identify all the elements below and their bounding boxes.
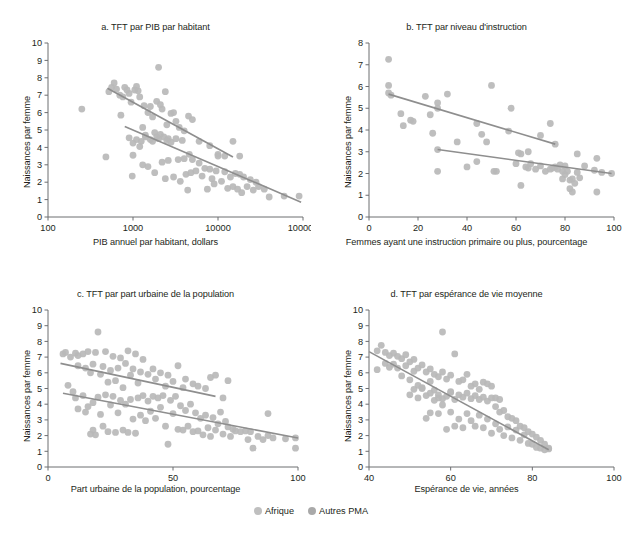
- legend-item-autres-pma: Autres PMA: [308, 506, 368, 516]
- panel-b-title: b. TFT par niveau d'instruction: [311, 22, 622, 32]
- legend-label: Autres PMA: [319, 506, 368, 516]
- panel-c-y-tick-label: 1: [37, 447, 42, 457]
- panel-c-title: c. TFT par part urbaine de la population: [0, 289, 311, 299]
- panel-b-y-tick-label: 0: [358, 212, 363, 222]
- panel-d-y-tick-label: 4: [358, 399, 363, 409]
- panel-b-y-axis-label: Naissances par femme: [343, 96, 353, 188]
- panel-a-y-tick-label: 5: [37, 125, 42, 135]
- panel-b-plot: 012345678020406080100: [311, 10, 622, 260]
- panel-d-x-tick-label: 80: [527, 473, 537, 483]
- panel-b-x-tick-label: 0: [366, 223, 371, 233]
- panel-a-y-tick-label: 1: [37, 195, 42, 205]
- panel-d-y-tick-label: 2: [358, 431, 363, 441]
- panel-b-x-tick-label: 20: [413, 223, 423, 233]
- trendline-afrique: [369, 352, 549, 450]
- panel-a-y-tick-label: 8: [37, 73, 42, 83]
- legend-swatch-icon: [254, 507, 262, 515]
- panel-a-y-axis-label: Naissances par femme: [22, 96, 32, 188]
- panel-b-x-tick-label: 100: [606, 223, 621, 233]
- panel-b-y-tick-label: 2: [358, 169, 363, 179]
- panel-a-x-axis-label: PIB annuel par habitant, dollars: [0, 236, 311, 248]
- panel-a-y-tick-label: 10: [32, 38, 42, 48]
- panel-d-y-tick-label: 10: [353, 305, 363, 315]
- panel-d-x-tick-label: 60: [446, 473, 456, 483]
- panel-c-y-tick-label: 6: [37, 368, 42, 378]
- panel-c-y-axis-label: Naissances par femme: [22, 350, 32, 442]
- legend-swatch-icon: [308, 507, 316, 515]
- panel-c-y-tick-label: 2: [37, 431, 42, 441]
- panel-a: a. TFT par PIB par habitant Naissances p…: [0, 10, 311, 260]
- panel-b-y-tick-label: 5: [358, 103, 363, 113]
- panel-d-y-tick-label: 6: [358, 368, 363, 378]
- figure-four-panel-scatter: a. TFT par PIB par habitant Naissances p…: [0, 0, 622, 534]
- panel-b-y-tick-label: 7: [358, 60, 363, 70]
- panel-c-x-tick-label: 0: [45, 473, 50, 483]
- panel-d-y-tick-label: 7: [358, 352, 363, 362]
- panel-b-y-tick-label: 8: [358, 38, 363, 48]
- panel-b-x-tick-label: 40: [462, 223, 472, 233]
- panel-b-x-tick-label: 60: [511, 223, 521, 233]
- cropped-caption-strip: [0, 0, 622, 9]
- panel-a-y-tick-label: 0: [37, 212, 42, 222]
- panel-a-y-tick-label: 9: [37, 56, 42, 66]
- panel-a-x-tick-label: 1000: [123, 223, 143, 233]
- panel-a-x-tick-label: 100000: [288, 223, 311, 233]
- panel-c-y-tick-label: 10: [32, 305, 42, 315]
- panel-d-y-tick-label: 8: [358, 337, 363, 347]
- panel-a-x-tick-label: 10000: [205, 223, 231, 233]
- panel-c-x-tick-label: 100: [290, 473, 305, 483]
- panel-b: b. TFT par niveau d'instruction Naissanc…: [311, 10, 622, 260]
- legend-item-afrique: Afrique: [254, 506, 294, 516]
- panel-b-y-tick-label: 1: [358, 190, 363, 200]
- panel-c-y-tick-label: 4: [37, 399, 42, 409]
- panel-d-x-axis-label: Espérance de vie, années: [311, 483, 622, 495]
- panel-d-y-tick-label: 5: [358, 384, 363, 394]
- figure-legend: AfriqueAutres PMA: [0, 505, 622, 516]
- panel-d-y-axis-label: Naissances par femme: [343, 350, 353, 442]
- panel-c-y-tick-label: 9: [37, 321, 42, 331]
- series-afrique: [385, 56, 580, 175]
- panel-d-title: d. TFT par espérance de vie moyenne: [311, 289, 622, 299]
- panel-b-y-tick-label: 3: [358, 147, 363, 157]
- panel-b-y-tick-label: 4: [358, 125, 363, 135]
- panel-a-y-tick-label: 7: [37, 90, 42, 100]
- panel-a-y-tick-label: 6: [37, 108, 42, 118]
- panel-c: c. TFT par part urbaine de la population…: [0, 277, 311, 527]
- panel-a-y-tick-label: 4: [37, 143, 42, 153]
- trendline-autres-pma: [125, 127, 301, 203]
- panel-c-y-tick-label: 8: [37, 337, 42, 347]
- panel-a-y-tick-label: 2: [37, 177, 42, 187]
- panel-d-y-tick-label: 1: [358, 447, 363, 457]
- panel-c-y-tick-label: 0: [37, 462, 42, 472]
- series-autres-pma: [65, 382, 299, 452]
- panel-d: d. TFT par espérance de vie moyenne Nais…: [311, 277, 622, 527]
- series-afrique: [374, 329, 503, 422]
- panel-d-x-tick-label: 40: [364, 473, 374, 483]
- panel-d-y-tick-label: 9: [358, 321, 363, 331]
- panel-a-x-tick-label: 100: [40, 223, 55, 233]
- panel-a-plot: 012345678910100100010000100000: [0, 10, 311, 260]
- panel-a-title: a. TFT par PIB par habitant: [0, 22, 311, 32]
- panel-b-y-tick-label: 6: [358, 82, 363, 92]
- panel-d-x-tick-label: 100: [606, 473, 621, 483]
- panel-c-x-axis-label: Part urbaine de la population, pourcenta…: [0, 483, 311, 495]
- panel-d-y-tick-label: 3: [358, 415, 363, 425]
- panel-d-y-tick-label: 0: [358, 462, 363, 472]
- panel-c-y-tick-label: 5: [37, 384, 42, 394]
- panel-a-y-tick-label: 3: [37, 160, 42, 170]
- legend-label: Afrique: [265, 506, 294, 516]
- panel-c-x-tick-label: 50: [168, 473, 178, 483]
- trendline-afrique: [61, 363, 216, 396]
- panel-b-x-tick-label: 80: [560, 223, 570, 233]
- panel-b-x-axis-label: Femmes ayant une instruction primaire ou…: [311, 236, 622, 248]
- panel-c-y-tick-label: 3: [37, 415, 42, 425]
- panel-c-y-tick-label: 7: [37, 352, 42, 362]
